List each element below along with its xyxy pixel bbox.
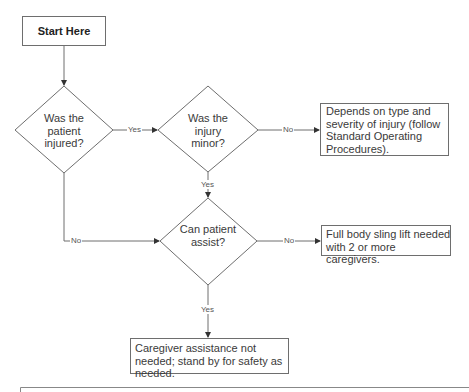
- edge-label-minor-yes: Yes: [200, 180, 215, 189]
- decision-injured-label: Was the patient injured?: [34, 112, 94, 150]
- result-sop-label: Depends on type and severity of injury (…: [326, 105, 452, 155]
- edge-label-injured-no: No: [70, 236, 82, 245]
- edge-label-minor-no: No: [282, 125, 294, 134]
- start-label: Start Here: [22, 25, 106, 38]
- decision-assist-label: Can patient assist?: [178, 223, 238, 248]
- edge-label-assist-no: No: [283, 236, 295, 245]
- result-standby-label: Caregiver assistance not needed; stand b…: [135, 342, 291, 380]
- bottom-frame: [21, 388, 469, 392]
- decision-minor-label: Was the injury minor?: [178, 112, 238, 150]
- result-sling-label: Full body sling lift needed with 2 or mo…: [326, 228, 452, 266]
- flowchart-canvas: [0, 0, 469, 392]
- edge-label-injured-yes: Yes: [127, 125, 142, 134]
- edge-label-assist-yes: Yes: [200, 305, 215, 314]
- edge-injured-no: [64, 173, 159, 241]
